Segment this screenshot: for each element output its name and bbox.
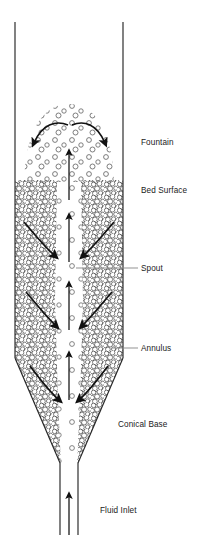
label-fluid-inlet: Fluid Inlet	[100, 506, 137, 515]
label-spout: Spout	[141, 264, 163, 273]
label-bed-surface: Bed Surface	[141, 186, 187, 195]
label-conical-base: Conical Base	[118, 420, 167, 429]
label-annulus: Annulus	[141, 344, 171, 353]
label-fountain: Fountain	[141, 138, 174, 147]
spouted-bed-diagram	[0, 0, 206, 542]
